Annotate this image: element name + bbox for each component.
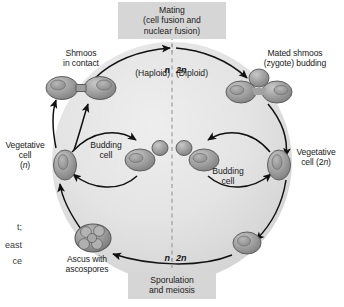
label-vegetative-cell-haploid: Vegetative cell (n)	[0, 140, 50, 171]
label-ascus: Ascus with ascospores	[48, 254, 126, 274]
ploidy-symbol-2n-bottom: 2n	[176, 253, 187, 263]
ploidy-bottom-diploid: 2n	[176, 243, 208, 263]
ploidy-symbol-n-bottom: n	[165, 253, 171, 263]
margin-fragment-2: east	[0, 240, 22, 251]
ascus-with-ascospores	[75, 224, 111, 252]
label-budding-cell-left: Budding cell	[80, 140, 132, 160]
haploid-name-label: (Haploid)	[114, 68, 170, 78]
label-shmoos-in-contact: Shmoos in contact	[42, 48, 120, 68]
vegetative-cell-haploid	[54, 150, 77, 180]
sporulating-cell	[233, 232, 261, 254]
diploid-name-label: (Diploid)	[176, 68, 234, 78]
sporulation-process-box: Sporulation and meiosis	[128, 272, 216, 299]
margin-fragment-1: t;	[0, 222, 22, 233]
margin-fragment-3: ce	[0, 256, 22, 267]
yeast-life-cycle-figure: Mating (cell fusion and nuclear fusion) …	[0, 0, 344, 307]
ploidy-bottom-haploid: n	[138, 243, 170, 263]
label-vegetative-cell-diploid: Vegetative cell (2n)	[288, 147, 344, 167]
mating-process-box: Mating (cell fusion and nuclear fusion)	[118, 2, 226, 39]
label-mated-shmoos: Mated shmoos (zygote) budding	[248, 48, 342, 68]
label-budding-cell-right: Budding cell	[202, 166, 254, 186]
